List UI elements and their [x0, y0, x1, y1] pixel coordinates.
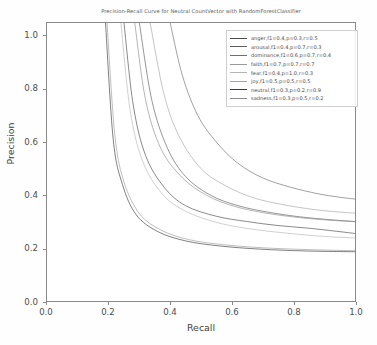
y-tick-mark	[43, 195, 46, 196]
y-tick-mark	[43, 89, 46, 90]
y-tick-mark	[43, 249, 46, 250]
x-tick-label: 0.0	[31, 307, 61, 317]
y-tick-label: 0.8	[12, 83, 38, 93]
chart-title: Precision-Recall Curve for Neutral Count…	[46, 8, 356, 14]
legend-item[interactable]: dominance,f1=0.6,p=0.7,r=0.4	[230, 51, 354, 60]
legend-color-swatch	[230, 72, 247, 73]
legend-label: fear,f1=0.4,p=1.0,r=0.3	[251, 70, 313, 76]
legend-label: arousal,f1=0.4,p=0.7,r=0.3	[251, 44, 321, 50]
legend-color-swatch	[230, 81, 247, 82]
legend-label: joy,f1=0.5,p=0.5,r=0.5	[251, 78, 310, 84]
y-tick-label: 0.2	[12, 243, 38, 253]
x-tick-label: 0.2	[93, 307, 123, 317]
y-tick-mark	[43, 35, 46, 36]
legend-color-swatch	[230, 55, 247, 56]
legend-label: dominance,f1=0.6,p=0.7,r=0.4	[251, 52, 331, 58]
y-tick-label: 0.0	[12, 297, 38, 307]
y-tick-label: 0.6	[12, 137, 38, 147]
legend-color-swatch	[230, 89, 247, 90]
x-tick-label: 0.6	[217, 307, 247, 317]
y-tick-label: 1.0	[12, 30, 38, 40]
legend-item[interactable]: neutral,f1=0.3,p=0.2,r=0.9	[230, 86, 354, 95]
x-tick-label: 0.4	[155, 307, 185, 317]
x-tick-mark	[170, 302, 171, 305]
legend-label: neutral,f1=0.3,p=0.2,r=0.9	[251, 87, 321, 93]
legend-item[interactable]: anger,f1=0.4,p=0.3,r=0.5	[230, 34, 354, 43]
y-tick-label: 0.4	[12, 190, 38, 200]
legend-label: faith,f1=0.7,p=0.7,r=0.7	[251, 61, 314, 67]
legend-item[interactable]: joy,f1=0.5,p=0.5,r=0.5	[230, 77, 354, 86]
legend-label: anger,f1=0.4,p=0.3,r=0.5	[251, 35, 318, 41]
x-tick-label: 0.8	[279, 307, 309, 317]
legend-item[interactable]: sadness,f1=0.3,p=0.5,r=0.2	[230, 94, 354, 103]
x-tick-mark	[294, 302, 295, 305]
legend-color-swatch	[230, 46, 247, 47]
y-tick-mark	[43, 142, 46, 143]
matplotlib-figure: Precision-Recall Curve for Neutral Count…	[0, 0, 377, 345]
legend-item[interactable]: arousal,f1=0.4,p=0.7,r=0.3	[230, 43, 354, 52]
x-axis-label: Recall	[46, 322, 356, 333]
x-tick-label: 1.0	[341, 307, 371, 317]
x-tick-mark	[46, 302, 47, 305]
legend-color-swatch	[230, 64, 247, 65]
chart-legend: anger,f1=0.4,p=0.3,r=0.5arousal,f1=0.4,p…	[226, 30, 358, 107]
x-tick-mark	[232, 302, 233, 305]
legend-color-swatch	[230, 98, 247, 99]
x-tick-mark	[356, 302, 357, 305]
legend-color-swatch	[230, 38, 247, 39]
x-tick-mark	[108, 302, 109, 305]
legend-item[interactable]: fear,f1=0.4,p=1.0,r=0.3	[230, 68, 354, 77]
legend-label: sadness,f1=0.3,p=0.5,r=0.2	[251, 95, 323, 101]
legend-item[interactable]: faith,f1=0.7,p=0.7,r=0.7	[230, 60, 354, 69]
